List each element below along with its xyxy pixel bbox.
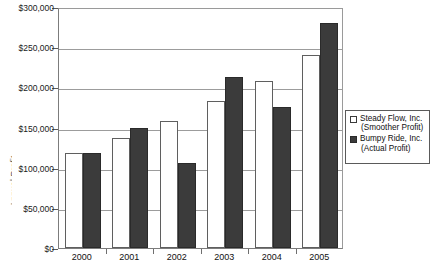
x-axis-tick-label-2000: 2000 bbox=[58, 252, 106, 262]
x-axis-tick-label-2004: 2004 bbox=[248, 252, 296, 262]
y-axis-tick-label: $150,000 bbox=[0, 124, 54, 134]
y-axis-tick-label: $200,000 bbox=[0, 83, 54, 93]
bar-2001-series1 bbox=[112, 138, 130, 248]
legend-label-primary: Bumpy Ride, Inc. bbox=[360, 134, 422, 143]
filled-square-icon bbox=[350, 136, 357, 143]
hollow-square-icon bbox=[350, 116, 357, 123]
bar-2001-series2 bbox=[130, 128, 148, 249]
gridline bbox=[59, 210, 342, 211]
y-axis-tick-label: $250,000 bbox=[0, 43, 54, 53]
legend: Steady Flow, Inc.(Smoother Profit)Bumpy … bbox=[345, 110, 430, 164]
bar-2003-series1 bbox=[207, 101, 225, 248]
x-axis-tick-label-2001: 2001 bbox=[106, 252, 154, 262]
gridline bbox=[59, 170, 342, 171]
y-axis-title-text: Annual Profit bbox=[9, 120, 12, 243]
x-axis-tick-label-2005: 2005 bbox=[296, 252, 344, 262]
y-axis-tick-label: $50,000 bbox=[0, 204, 54, 214]
bar-2004-series2 bbox=[273, 107, 291, 248]
legend-label-primary: Steady Flow, Inc. bbox=[360, 114, 422, 123]
bar-2000-series2 bbox=[83, 153, 101, 248]
bar-chart: Annual Profit $0$50,000$100,000$150,000$… bbox=[0, 0, 432, 270]
bar-2002-series1 bbox=[160, 121, 178, 248]
gridline bbox=[59, 130, 342, 131]
y-axis-tick-label: $0 bbox=[0, 244, 54, 254]
gridline bbox=[59, 89, 342, 90]
y-axis-tick-label: $300,000 bbox=[0, 3, 54, 13]
plot-area bbox=[58, 8, 343, 249]
legend-label-secondary: (Actual Profit) bbox=[361, 144, 426, 153]
legend-entry-row: Bumpy Ride, Inc. bbox=[350, 134, 426, 143]
gridline bbox=[59, 49, 342, 50]
bar-2005-series2 bbox=[320, 23, 338, 248]
bar-2000-series1 bbox=[65, 153, 83, 248]
legend-entry-row: Steady Flow, Inc. bbox=[350, 114, 426, 123]
y-axis-title-clipped: Annual Profit bbox=[0, 120, 12, 250]
legend-entry-2: Bumpy Ride, Inc.(Actual Profit) bbox=[350, 134, 426, 152]
bar-2002-series2 bbox=[178, 163, 196, 248]
bar-2004-series1 bbox=[255, 81, 273, 248]
x-axis-tick-label-2003: 2003 bbox=[201, 252, 249, 262]
x-axis-tick-label-2002: 2002 bbox=[153, 252, 201, 262]
legend-label-secondary: (Smoother Profit) bbox=[361, 123, 426, 132]
y-axis-tick-label: $100,000 bbox=[0, 164, 54, 174]
bar-2003-series2 bbox=[225, 77, 243, 248]
legend-entry-1: Steady Flow, Inc.(Smoother Profit) bbox=[350, 114, 426, 132]
bar-2005-series1 bbox=[302, 55, 320, 248]
